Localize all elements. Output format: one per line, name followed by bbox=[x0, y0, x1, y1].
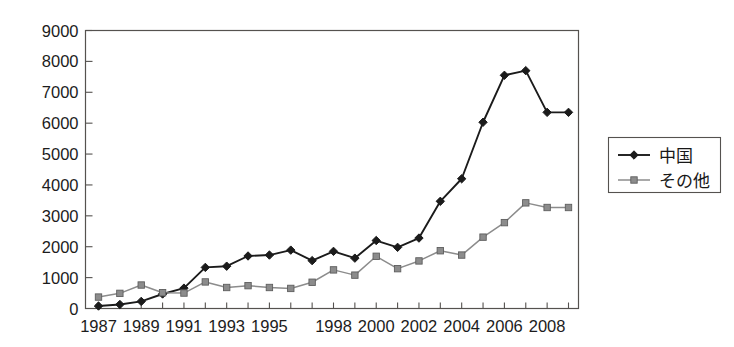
y-tick-label: 4000 bbox=[42, 176, 79, 194]
data-point-china bbox=[522, 66, 530, 74]
data-point-others bbox=[266, 284, 272, 290]
data-point-others bbox=[501, 219, 507, 225]
y-tick-label: 6000 bbox=[42, 114, 79, 132]
data-point-others bbox=[416, 258, 422, 264]
x-tick-label: 2006 bbox=[486, 317, 523, 335]
x-axis-ticks bbox=[99, 303, 569, 309]
data-point-others bbox=[565, 204, 571, 210]
chart-figure: 0100020003000400050006000700080009000 19… bbox=[0, 0, 734, 347]
x-tick-label: 2008 bbox=[529, 317, 566, 335]
data-point-others bbox=[223, 284, 229, 290]
x-tick-label: 1987 bbox=[80, 317, 117, 335]
data-point-china bbox=[244, 252, 252, 260]
x-tick-label: 1998 bbox=[315, 317, 352, 335]
data-point-china bbox=[137, 297, 145, 305]
x-tick-label: 1991 bbox=[166, 317, 203, 335]
x-tick-label: 2004 bbox=[443, 317, 480, 335]
y-tick-label: 5000 bbox=[42, 145, 79, 163]
data-point-others bbox=[159, 290, 165, 296]
legend-label: その他 bbox=[659, 171, 710, 191]
data-point-china bbox=[222, 262, 230, 270]
data-point-others bbox=[330, 267, 336, 273]
y-axis-tick-labels: 0100020003000400050006000700080009000 bbox=[42, 22, 79, 318]
x-tick-label: 1989 bbox=[123, 317, 160, 335]
data-point-china bbox=[564, 108, 572, 116]
x-tick-label: 1993 bbox=[208, 317, 245, 335]
data-point-others bbox=[117, 290, 123, 296]
data-point-others bbox=[352, 272, 358, 278]
data-point-others bbox=[373, 253, 379, 259]
data-point-china bbox=[329, 247, 337, 255]
data-point-others bbox=[523, 200, 529, 206]
data-point-others bbox=[138, 282, 144, 288]
y-tick-label: 2000 bbox=[42, 238, 79, 256]
y-tick-label: 7000 bbox=[42, 83, 79, 101]
data-point-china bbox=[393, 243, 401, 251]
data-point-others bbox=[181, 290, 187, 296]
chart-legend: 中国その他 bbox=[609, 138, 721, 193]
x-tick-label: 2002 bbox=[401, 317, 438, 335]
data-point-china bbox=[308, 256, 316, 264]
data-point-china bbox=[500, 71, 508, 79]
data-point-china bbox=[479, 118, 487, 126]
data-point-china bbox=[265, 251, 273, 259]
line-chart-svg: 0100020003000400050006000700080009000 19… bbox=[0, 0, 734, 347]
y-tick-label: 9000 bbox=[42, 22, 79, 40]
data-point-china bbox=[415, 234, 423, 242]
data-point-others bbox=[309, 279, 315, 285]
data-point-others bbox=[480, 234, 486, 240]
legend-label: 中国 bbox=[659, 146, 693, 166]
data-point-china bbox=[543, 108, 551, 116]
y-tick-label: 0 bbox=[69, 300, 78, 318]
data-point-others bbox=[202, 279, 208, 285]
legend-swatch-marker bbox=[631, 177, 637, 183]
data-point-others bbox=[95, 294, 101, 300]
y-axis-ticks bbox=[86, 31, 93, 278]
x-tick-label: 2000 bbox=[358, 317, 395, 335]
data-point-others bbox=[288, 285, 294, 291]
y-tick-label: 3000 bbox=[42, 207, 79, 225]
data-point-others bbox=[437, 248, 443, 254]
data-point-others bbox=[544, 204, 550, 210]
data-point-others bbox=[245, 282, 251, 288]
y-tick-label: 8000 bbox=[42, 52, 79, 70]
x-axis-tick-labels: 1987198919911993199519982000200220042006… bbox=[80, 317, 565, 335]
data-point-china bbox=[116, 300, 124, 308]
data-point-china bbox=[287, 246, 295, 254]
y-tick-label: 1000 bbox=[42, 269, 79, 287]
data-point-others bbox=[458, 252, 464, 258]
data-series-markers bbox=[94, 66, 572, 310]
x-tick-label: 1995 bbox=[251, 317, 288, 335]
data-point-others bbox=[394, 265, 400, 271]
